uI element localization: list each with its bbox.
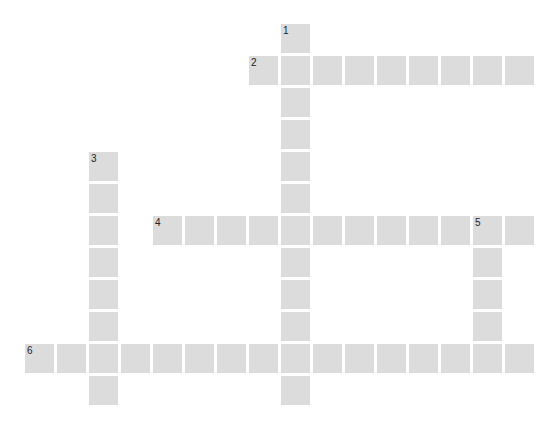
clue-number: 6	[27, 345, 33, 356]
crossword-cell[interactable]	[441, 344, 470, 373]
crossword-cell[interactable]	[185, 344, 214, 373]
crossword-cell[interactable]	[377, 56, 406, 85]
clue-number: 1	[283, 25, 289, 36]
crossword-cell[interactable]	[313, 344, 342, 373]
crossword-cell[interactable]	[281, 376, 310, 405]
crossword-cell[interactable]	[313, 216, 342, 245]
crossword-cell[interactable]	[249, 216, 278, 245]
crossword-cell[interactable]	[345, 56, 374, 85]
clue-number: 2	[251, 57, 257, 68]
crossword-cell[interactable]	[281, 216, 310, 245]
crossword-cell[interactable]	[505, 344, 534, 373]
crossword-cell[interactable]	[313, 56, 342, 85]
crossword-cell[interactable]: 4	[153, 216, 182, 245]
crossword-cell[interactable]	[89, 184, 118, 213]
crossword-cell[interactable]	[473, 56, 502, 85]
crossword-cell[interactable]	[281, 88, 310, 117]
crossword-cell[interactable]: 1	[281, 24, 310, 53]
clue-number: 4	[155, 217, 161, 228]
crossword-grid: 123456	[0, 0, 560, 436]
crossword-cell[interactable]	[89, 312, 118, 341]
crossword-cell[interactable]	[377, 216, 406, 245]
crossword-cell[interactable]	[57, 344, 86, 373]
crossword-cell[interactable]	[345, 216, 374, 245]
crossword-cell[interactable]	[249, 344, 278, 373]
crossword-cell[interactable]	[409, 56, 438, 85]
crossword-cell[interactable]: 6	[25, 344, 54, 373]
crossword-cell[interactable]: 3	[89, 152, 118, 181]
crossword-cell[interactable]	[473, 312, 502, 341]
crossword-cell[interactable]: 5	[473, 216, 502, 245]
crossword-cell[interactable]	[377, 344, 406, 373]
crossword-cell[interactable]	[473, 280, 502, 309]
crossword-cell[interactable]	[441, 216, 470, 245]
crossword-cell[interactable]	[281, 56, 310, 85]
crossword-cell[interactable]	[89, 216, 118, 245]
crossword-cell[interactable]	[185, 216, 214, 245]
crossword-cell[interactable]	[281, 344, 310, 373]
crossword-cell[interactable]	[89, 280, 118, 309]
crossword-cell[interactable]	[217, 216, 246, 245]
crossword-cell[interactable]	[281, 152, 310, 181]
crossword-cell[interactable]	[505, 56, 534, 85]
clue-number: 5	[475, 217, 481, 228]
crossword-cell[interactable]	[121, 344, 150, 373]
crossword-cell[interactable]	[505, 216, 534, 245]
crossword-cell[interactable]	[409, 216, 438, 245]
crossword-cell[interactable]	[409, 344, 438, 373]
crossword-cell[interactable]	[89, 376, 118, 405]
crossword-cell[interactable]	[217, 344, 246, 373]
clue-number: 3	[91, 153, 97, 164]
crossword-cell[interactable]	[345, 344, 374, 373]
crossword-cell[interactable]	[473, 344, 502, 373]
crossword-cell[interactable]	[153, 344, 182, 373]
crossword-cell[interactable]	[281, 280, 310, 309]
crossword-cell[interactable]	[441, 56, 470, 85]
crossword-cell[interactable]	[281, 312, 310, 341]
crossword-cell[interactable]: 2	[249, 56, 278, 85]
crossword-cell[interactable]	[89, 248, 118, 277]
crossword-cell[interactable]	[281, 184, 310, 213]
crossword-cell[interactable]	[89, 344, 118, 373]
crossword-cell[interactable]	[473, 248, 502, 277]
crossword-cell[interactable]	[281, 248, 310, 277]
crossword-cell[interactable]	[281, 120, 310, 149]
